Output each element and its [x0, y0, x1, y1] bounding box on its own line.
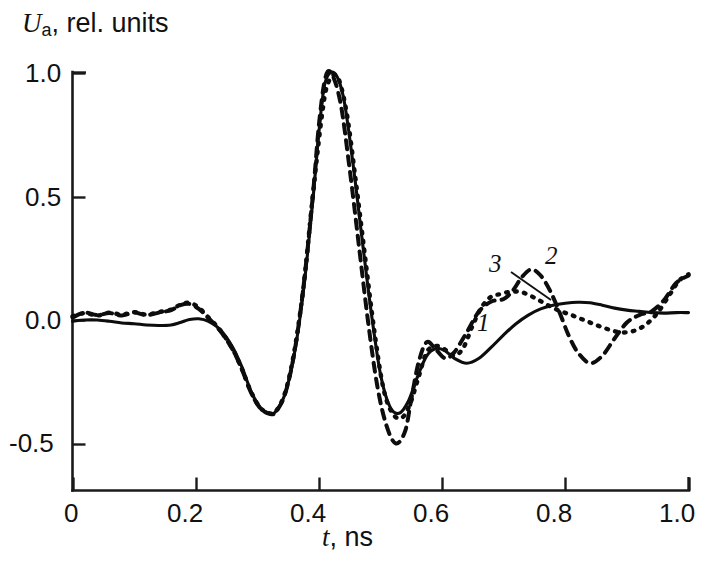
- curve-label-1: 1: [477, 310, 490, 335]
- y-axis-title: Ua, rel. units: [22, 10, 169, 39]
- curve-label-2: 2: [545, 243, 558, 268]
- axes-group: [73, 72, 690, 491]
- y-axis-symbol: U: [22, 8, 42, 38]
- y-tick-label-1: 1.0: [25, 60, 61, 86]
- y-axis-units: , rel. units: [52, 8, 169, 38]
- curve-label-3: 3: [489, 251, 502, 276]
- y-axis-subscript: a: [42, 20, 52, 40]
- x-tick-label-3: 0.4: [290, 500, 326, 526]
- x-axis-title: t, ns: [322, 524, 373, 551]
- x-tick-label-2: 0.2: [167, 500, 203, 526]
- y-tick-marks: [73, 74, 86, 445]
- x-tick-label-5: 0.8: [536, 500, 572, 526]
- x-tick-label-6: 1.0: [659, 500, 695, 526]
- y-tick-label-3: 0.0: [25, 307, 61, 333]
- x-tick-label-4: 0.6: [413, 500, 449, 526]
- x-tick-marks: [74, 478, 690, 491]
- curve-2-dashed: [73, 71, 689, 444]
- y-tick-label-2: 0.5: [25, 184, 61, 210]
- data-curves: [73, 71, 689, 444]
- x-axis-units: , ns: [330, 522, 374, 552]
- plot-canvas: [0, 0, 721, 572]
- y-tick-label-4: -0.5: [9, 430, 54, 456]
- chart-figure: Ua, rel. units t, ns 1.0 0.5 0.0 -0.5 0 …: [0, 0, 721, 572]
- x-tick-label-1: 0: [64, 500, 78, 526]
